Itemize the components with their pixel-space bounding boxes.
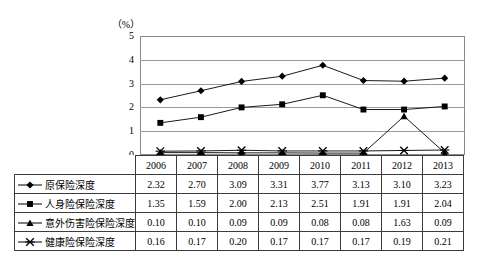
insurance-depth-figure: （%） 543210 20062007200820092010201120122… <box>0 0 481 253</box>
cell-2012: 3.10 <box>382 175 423 194</box>
marker-square <box>279 101 285 107</box>
year-header-2009: 2009 <box>259 156 300 175</box>
cell-2012: 1.63 <box>382 213 423 232</box>
legend-marker-diamond <box>17 180 43 190</box>
cell-2008: 0.20 <box>218 232 259 251</box>
year-header-2006: 2006 <box>136 156 177 175</box>
y-axis-unit-label: （%） <box>112 16 139 31</box>
marker-triangle <box>400 113 407 120</box>
marker-diamond <box>441 75 448 82</box>
marker-square <box>27 201 33 207</box>
year-header-2013: 2013 <box>423 156 464 175</box>
cell-2008: 3.09 <box>218 175 259 194</box>
series-label: 人身险保险深度 <box>45 199 115 210</box>
cell-2006: 0.10 <box>136 213 177 232</box>
table-corner-cell <box>15 156 136 175</box>
cell-2006: 1.35 <box>136 194 177 213</box>
cell-2009: 2.13 <box>259 194 300 213</box>
legend-swatch <box>17 237 43 247</box>
marker-diamond <box>319 62 326 69</box>
marker-diamond <box>400 78 407 85</box>
cell-2013: 3.23 <box>423 175 464 194</box>
marker-x-cross <box>399 147 408 155</box>
cell-2010: 0.08 <box>300 213 341 232</box>
year-header-2010: 2010 <box>300 156 341 175</box>
cell-2007: 0.10 <box>177 213 218 232</box>
series-label: 健康险保险深度 <box>45 237 115 248</box>
table-row: 原保险深度2.322.703.093.313.773.133.103.23 <box>15 175 464 194</box>
cell-2007: 1.59 <box>177 194 218 213</box>
marker-square <box>360 107 366 113</box>
cell-2012: 1.91 <box>382 194 423 213</box>
cell-2008: 2.00 <box>218 194 259 213</box>
marker-diamond <box>238 78 245 85</box>
cell-2007: 0.17 <box>177 232 218 251</box>
marker-square <box>239 104 245 110</box>
y-tick-4: 4 <box>112 55 134 65</box>
cell-2010: 2.51 <box>300 194 341 213</box>
legend-swatch <box>17 180 43 190</box>
plot-area <box>140 36 465 155</box>
cell-2006: 0.16 <box>136 232 177 251</box>
y-tick-5: 5 <box>112 31 134 41</box>
cell-2013: 0.09 <box>423 213 464 232</box>
cell-2009: 0.09 <box>259 213 300 232</box>
marker-diamond <box>360 77 367 84</box>
cell-2013: 0.21 <box>423 232 464 251</box>
table-row: 健康险保险深度0.160.170.200.170.170.170.190.21 <box>15 232 464 251</box>
marker-diamond <box>26 182 33 189</box>
cell-2009: 3.31 <box>259 175 300 194</box>
cell-2011: 0.17 <box>341 232 382 251</box>
table-header-row: 20062007200820092010201120122013 <box>15 156 464 175</box>
cell-2007: 2.70 <box>177 175 218 194</box>
marker-square <box>401 107 407 113</box>
legend-row-2: 人身险保险深度 <box>15 194 136 213</box>
y-tick-2: 2 <box>112 102 134 112</box>
cell-2008: 0.09 <box>218 213 259 232</box>
legend-marker-triangle <box>17 218 43 228</box>
marker-diamond <box>197 87 204 94</box>
series-1 <box>157 62 449 104</box>
cell-2013: 2.04 <box>423 194 464 213</box>
legend-marker-square <box>17 199 43 209</box>
table-body: 原保险深度2.322.703.093.313.773.133.103.23人身险… <box>15 175 464 251</box>
cell-2009: 0.17 <box>259 232 300 251</box>
marker-x-cross <box>25 239 34 247</box>
table-row: 意外伤害险保险深度0.100.100.090.090.080.081.630.0… <box>15 213 464 232</box>
year-header-2008: 2008 <box>218 156 259 175</box>
cell-2006: 2.32 <box>136 175 177 194</box>
legend-row-1: 原保险深度 <box>15 175 136 194</box>
marker-square <box>320 92 326 98</box>
marker-diamond <box>279 73 286 80</box>
legend-row-3: 意外伤害险保险深度 <box>15 213 136 232</box>
marker-diamond <box>157 96 164 103</box>
series-2 <box>157 92 447 126</box>
series-label: 原保险深度 <box>45 180 95 191</box>
y-tick-1: 1 <box>112 126 134 136</box>
series-layer <box>140 36 465 155</box>
legend-marker-x-cross <box>17 237 43 247</box>
marker-square <box>198 114 204 120</box>
cell-2010: 3.77 <box>300 175 341 194</box>
legend-row-4: 健康险保险深度 <box>15 232 136 251</box>
year-header-2012: 2012 <box>382 156 423 175</box>
cell-2011: 0.08 <box>341 213 382 232</box>
table-row: 人身险保险深度1.351.592.002.132.511.911.912.04 <box>15 194 464 213</box>
marker-square <box>157 120 163 126</box>
legend-swatch <box>17 218 43 228</box>
year-header-2007: 2007 <box>177 156 218 175</box>
y-tick-3: 3 <box>112 79 134 89</box>
marker-square <box>442 103 448 109</box>
cell-2010: 0.17 <box>300 232 341 251</box>
cell-2012: 0.19 <box>382 232 423 251</box>
series-label: 意外伤害险保险深度 <box>45 218 135 229</box>
cell-2011: 3.13 <box>341 175 382 194</box>
legend-swatch <box>17 199 43 209</box>
year-header-2011: 2011 <box>341 156 382 175</box>
data-table: 20062007200820092010201120122013 原保险深度2.… <box>14 155 464 251</box>
cell-2011: 1.91 <box>341 194 382 213</box>
